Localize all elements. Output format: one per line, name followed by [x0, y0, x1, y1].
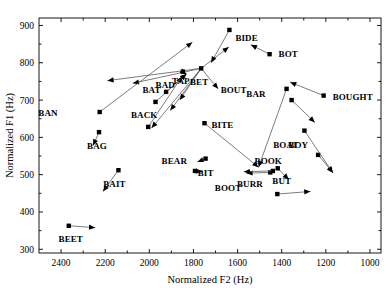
- y-tick-label: 700: [20, 96, 35, 106]
- data-point-bag[interactable]: [97, 130, 101, 134]
- point-label-beet: BEET: [59, 234, 83, 244]
- point-label-bought: BOUGHT: [333, 92, 373, 102]
- data-point-bat[interactable]: [153, 100, 157, 104]
- point-label-bite: BITE: [211, 120, 233, 130]
- arrowhead-ban: [186, 42, 193, 48]
- y-tick-label: 500: [20, 170, 35, 180]
- x-tick-label: 1800: [184, 258, 203, 268]
- y-tick-label: 600: [20, 133, 35, 143]
- point-label-bit: BIT: [198, 168, 214, 178]
- x-tick-label: 2000: [140, 258, 159, 268]
- data-point-bet[interactable]: [199, 66, 203, 70]
- data-point-bot[interactable]: [267, 52, 271, 56]
- point-label-bide: BIDE: [235, 33, 257, 43]
- data-point-tap[interactable]: [164, 90, 168, 94]
- vector-arrowhead: [212, 82, 218, 88]
- y-axis-title: Normalized F1 (Hz): [4, 92, 16, 178]
- point-label-but: BUT: [272, 176, 291, 186]
- arrowhead-bet: [222, 47, 228, 53]
- data-point-bit[interactable]: [203, 156, 207, 160]
- data-point-but[interactable]: [276, 166, 280, 170]
- x-tick-label: 2200: [96, 258, 115, 268]
- vector-arrowhead: [152, 122, 158, 128]
- vector-arrowhead: [180, 93, 186, 100]
- data-point-boat[interactable]: [302, 128, 306, 132]
- data-point-boot[interactable]: [275, 192, 279, 196]
- y-tick-label: 900: [20, 21, 35, 31]
- data-point-bide[interactable]: [227, 28, 231, 32]
- point-label-boat: BOAT: [273, 140, 298, 150]
- data-point-bought[interactable]: [321, 93, 325, 97]
- point-label-bag: BAG: [87, 141, 107, 151]
- data-point-bear[interactable]: [193, 169, 197, 173]
- point-label-bait: BAIT: [103, 179, 125, 189]
- y-tick-label: 300: [20, 245, 35, 255]
- data-point-bout[interactable]: [284, 87, 288, 91]
- x-axis-title: Normalized F2 (Hz): [167, 274, 253, 286]
- vowel-vector-boat: [304, 131, 332, 173]
- data-point-bait[interactable]: [116, 168, 120, 172]
- vowel-formant-chart: 2400220020001800160014001200100030040050…: [0, 0, 390, 288]
- data-point-back[interactable]: [146, 125, 150, 129]
- point-label-back: BACK: [131, 110, 157, 120]
- arrowhead-bought: [290, 82, 297, 87]
- x-tick-label: 1600: [228, 258, 247, 268]
- point-label-bet: BET: [190, 77, 208, 87]
- y-tick-label: 400: [20, 207, 35, 217]
- data-point-burr[interactable]: [271, 169, 275, 173]
- x-tick-label: 1400: [272, 258, 291, 268]
- y-tick-label: 800: [20, 58, 35, 68]
- point-label-bout: BOUT: [221, 85, 247, 95]
- point-label-burr: BURR: [237, 179, 263, 189]
- plot-svg: 2400220020001800160014001200100030040050…: [0, 0, 390, 288]
- point-label-bot: BOT: [279, 49, 298, 59]
- data-point-bad[interactable]: [181, 70, 185, 74]
- arrowhead-bit: [197, 157, 204, 162]
- data-point-bar[interactable]: [289, 98, 293, 102]
- x-tick-label: 1000: [360, 258, 379, 268]
- point-label-ban: BAN: [38, 108, 58, 118]
- data-point-bite[interactable]: [202, 121, 206, 125]
- point-label-bar: BAR: [246, 89, 266, 99]
- x-tick-label: 1200: [316, 258, 335, 268]
- point-label-bad: BAD: [156, 80, 176, 90]
- arrowhead-boot: [304, 189, 310, 194]
- data-point-ban[interactable]: [97, 110, 101, 114]
- x-tick-label: 2400: [52, 258, 71, 268]
- point-label-bear: BEAR: [162, 156, 188, 166]
- vector-arrowhead: [107, 77, 113, 82]
- plot-frame: [39, 18, 381, 253]
- arrowhead-beet: [89, 225, 95, 230]
- vector-arrowhead: [133, 79, 140, 84]
- data-point-beet[interactable]: [67, 224, 71, 228]
